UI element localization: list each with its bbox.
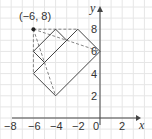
x-tick-label: 2 bbox=[119, 121, 125, 132]
y-tick-label: 2 bbox=[91, 91, 97, 102]
coordinate-diagram: (−6, 8) y x −8 −6 −4 −2 0 2 2 4 6 8 bbox=[0, 0, 152, 139]
x-axis-label: x bbox=[139, 120, 144, 131]
x-tick-label: 0 bbox=[93, 121, 99, 132]
point-label: (−6, 8) bbox=[19, 11, 51, 22]
x-tick-label: −6 bbox=[28, 121, 41, 132]
y-axis-label: y bbox=[90, 3, 95, 14]
y-tick-label: 8 bbox=[91, 24, 97, 35]
marked-point bbox=[31, 27, 35, 31]
y-tick-label: 4 bbox=[91, 69, 97, 80]
y-tick-label: 6 bbox=[91, 46, 97, 57]
x-tick-label: −8 bbox=[4, 121, 17, 132]
x-tick-label: −2 bbox=[72, 121, 85, 132]
x-tick-label: −4 bbox=[50, 121, 63, 132]
